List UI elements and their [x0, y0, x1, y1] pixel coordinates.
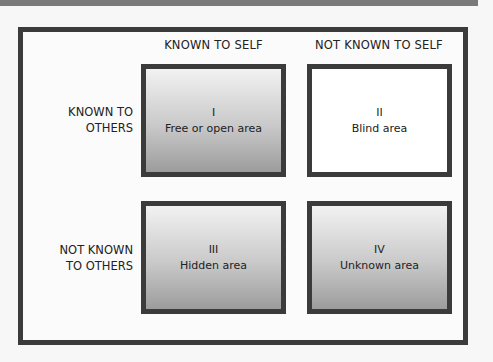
- quadrant-label: Free or open area: [165, 121, 262, 137]
- row-header-line1: NOT KNOWN: [59, 242, 133, 258]
- quadrant-numeral: III: [209, 242, 219, 258]
- quadrant-blind-area: II Blind area: [307, 64, 452, 177]
- quadrant-numeral: I: [212, 105, 215, 121]
- row-header-not-known-to-others: NOT KNOWN TO OTHERS: [59, 242, 133, 274]
- row-header-line2: TO OTHERS: [59, 258, 133, 274]
- quadrant-numeral: IV: [374, 242, 385, 258]
- row-header-line2: OTHERS: [68, 120, 133, 136]
- column-header-not-known-to-self: NOT KNOWN TO SELF: [306, 38, 452, 52]
- top-bar: [0, 0, 478, 6]
- quadrant-numeral: II: [376, 105, 383, 121]
- quadrant-label: Hidden area: [180, 258, 247, 274]
- quadrant-hidden-area: III Hidden area: [141, 201, 286, 314]
- row-header-line1: KNOWN TO: [68, 104, 133, 120]
- row-header-known-to-others: KNOWN TO OTHERS: [68, 104, 133, 136]
- column-header-known-to-self: KNOWN TO SELF: [141, 38, 286, 52]
- quadrant-open-area: I Free or open area: [141, 64, 286, 177]
- quadrant-label: Blind area: [352, 121, 408, 137]
- quadrant-unknown-area: IV Unknown area: [307, 201, 452, 314]
- quadrant-label: Unknown area: [340, 258, 419, 274]
